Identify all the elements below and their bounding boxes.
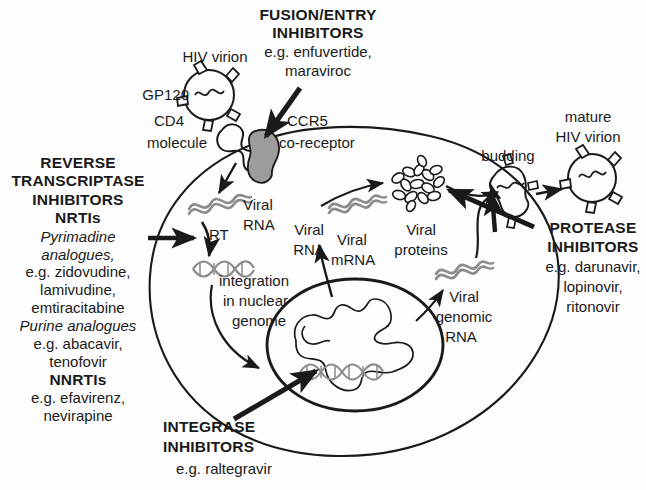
cd4-molecule-label-line1: CD4 bbox=[154, 112, 184, 129]
viral-rna-entry-label-line2: RNA bbox=[243, 216, 275, 233]
mature-virion-label-line2: HIV virion bbox=[555, 128, 620, 145]
ccr5-label-line1: CCR5 bbox=[287, 112, 328, 129]
integration-label-line1: integration bbox=[219, 272, 289, 289]
viral-genomic-rna-label-line2: genomic bbox=[436, 308, 493, 325]
nrti-subclass-heading: NRTIs bbox=[0, 209, 158, 227]
budding-label: budding bbox=[481, 147, 534, 164]
integration-label-line2: in nuclear bbox=[223, 292, 288, 309]
integrase-inhibitors-heading-line2: INHIBITORS bbox=[163, 438, 254, 456]
uncoating-arrow bbox=[219, 163, 236, 193]
pyrimadine-examples-line3: emtiracitabine bbox=[0, 299, 158, 317]
protease-inhibitors-examples-line2: lopinovir, bbox=[563, 278, 622, 295]
viral-rna-entry-label-line1: Viral bbox=[243, 196, 273, 213]
viral-rna-strand-entry bbox=[189, 195, 251, 214]
protease-inhibitor-arrow bbox=[449, 190, 534, 232]
fusion-entry-inhibitors-heading-line2: INHIBITORS bbox=[272, 24, 363, 42]
nnrti-subclass-heading: NNRTIs bbox=[0, 371, 158, 389]
pyrimadine-examples-line2: lamivudine, bbox=[0, 281, 158, 299]
hiv-lifecycle-diagram: FUSION/ENTRY INHIBITORS e.g. enfuvertide… bbox=[0, 0, 646, 490]
viral-genomic-rna-strand bbox=[436, 262, 493, 279]
protease-inhibitors-heading-line2: INHIBITORS bbox=[547, 238, 638, 256]
fusion-entry-inhibitors-examples-line2: maraviroc bbox=[285, 62, 351, 79]
integration-label-line3: genome bbox=[232, 312, 286, 329]
nnrti-examples-line1: e.g. efavirenz, bbox=[0, 389, 158, 407]
mature-hiv-virion bbox=[560, 145, 622, 213]
viral-rna-mid-label-line2: RNA bbox=[293, 241, 325, 258]
integrase-inhibitors-examples: e.g. raltegravir bbox=[176, 460, 272, 477]
purine-examples-line1: e.g. abacavir, bbox=[0, 335, 158, 353]
viral-proteins-label-line2: proteins bbox=[394, 241, 447, 258]
purine-examples-line2: tenofovir bbox=[0, 353, 158, 371]
reverse-transcriptase-inhibitors-block: REVERSE TRANSCRIPTASE INHIBITORS NRTIs P… bbox=[0, 154, 158, 425]
protease-inhibitors-examples-line3: ritonovir bbox=[566, 298, 619, 315]
ccr5-label-line2: co-receptor bbox=[279, 134, 355, 151]
fusion-entry-inhibitors-heading-line1: FUSION/ENTRY bbox=[259, 6, 376, 24]
rti-heading-line2: TRANSCRIPTASE bbox=[0, 172, 158, 190]
pyrimadine-examples-line1: e.g. zidovudine, bbox=[0, 263, 158, 281]
rt-enzyme-label: RT bbox=[209, 226, 229, 243]
nnrti-examples-line2: nevirapine bbox=[0, 407, 158, 425]
gp120-label: GP120 bbox=[142, 86, 189, 103]
hiv-virion-label: HIV virion bbox=[182, 48, 247, 65]
cd4-molecule-label-line2: molecule bbox=[147, 134, 207, 151]
mature-virion-label-line1: mature bbox=[565, 108, 612, 125]
viral-genomic-rna-label-line3: RNA bbox=[445, 328, 477, 345]
maturation-arrow bbox=[536, 189, 562, 194]
purine-analogues-label: Purine analogues bbox=[0, 317, 158, 335]
rti-heading-line3: INHIBITORS bbox=[0, 191, 158, 209]
integrase-inhibitor-arrow bbox=[234, 371, 316, 419]
ccr5-coreceptor bbox=[248, 130, 279, 183]
integrase-inhibitors-heading-line1: INTEGRASE bbox=[163, 418, 255, 436]
fusion-entry-inhibitors-examples-line1: e.g. enfuvertide, bbox=[264, 43, 372, 60]
viral-rna-mid-label-line1: Viral bbox=[294, 221, 324, 238]
viral-mrna-label-line1: Viral bbox=[337, 231, 367, 248]
pyrimadine-analogues-line1: Pyrimadine bbox=[0, 228, 158, 246]
pyrimadine-analogues-line2: analogues, bbox=[0, 246, 158, 264]
viral-mrna-label-line2: mRNA bbox=[331, 251, 375, 268]
protease-inhibitors-heading-line1: PROTEASE bbox=[550, 219, 637, 237]
cell-nucleus bbox=[267, 279, 443, 411]
viral-proteins-cluster bbox=[390, 154, 446, 213]
viral-genomic-rna-label-line1: Viral bbox=[449, 288, 479, 305]
viral-proteins-label-line1: Viral bbox=[406, 221, 436, 238]
rti-heading-line1: REVERSE bbox=[0, 154, 158, 172]
protease-inhibitors-examples-line1: e.g. darunavir, bbox=[545, 258, 640, 275]
